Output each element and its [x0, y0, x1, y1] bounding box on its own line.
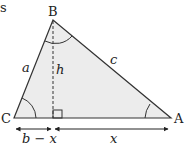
side-label-c: c: [110, 52, 118, 67]
triangle-abc: [14, 20, 171, 118]
vertex-label-a: A: [173, 111, 184, 126]
side-label-a: a: [22, 60, 30, 75]
segment-label-b-minus-x: b − x: [22, 131, 57, 145]
vertex-label-b: B: [48, 4, 58, 19]
corner-text: s: [0, 0, 7, 15]
vertex-label-c: C: [1, 111, 11, 126]
segment-label-x: x: [110, 131, 118, 145]
height-label-h: h: [56, 62, 64, 77]
triangle-diagram: s B C A a c h b − x x: [0, 0, 187, 145]
